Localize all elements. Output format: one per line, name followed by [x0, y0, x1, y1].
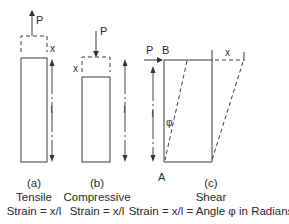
corner-a-label: A: [158, 171, 166, 183]
specimen-body: [21, 58, 47, 162]
caption-formula-b: Strain = x/l: [70, 205, 125, 217]
caption-title-a: Tensile: [16, 191, 52, 203]
length-label: l: [124, 105, 126, 115]
sheared-left-edge: [165, 61, 187, 160]
dimension-arrow-up-icon: [123, 59, 128, 66]
caption-label-c: (c): [204, 177, 218, 189]
length-label: l: [51, 105, 53, 115]
caption-label-a: (a): [27, 177, 41, 189]
dimension-arrow-down-icon: [50, 155, 55, 162]
elongation-outline: [21, 36, 47, 52]
specimen-body: [82, 77, 110, 162]
angle-phi-label: φ: [166, 117, 173, 128]
length-label: l: [152, 109, 154, 119]
extension-label: x: [73, 63, 78, 74]
dimension-arrow-down-icon: [151, 155, 156, 162]
strain-diagram: P x l P x l x P B A: [0, 0, 289, 224]
captions: (a) Tensile Strain = x/l (b) Compressive…: [7, 177, 289, 217]
dimension-arrow-up-icon: [151, 66, 156, 73]
panel-compressive: P x l: [73, 25, 128, 162]
force-label: P: [146, 44, 153, 56]
force-label: P: [100, 25, 107, 37]
dimension-arrow-up-icon: [50, 59, 55, 66]
caption-title-b: Compressive: [63, 191, 130, 203]
caption-formula-a: Strain = x/l: [7, 205, 62, 217]
sheared-right-edge: [212, 62, 243, 160]
displacement-label: x: [225, 47, 230, 58]
caption-title-c: Shear: [196, 191, 227, 203]
panel-shear: x P B A φ l: [144, 44, 244, 183]
original-outline: [82, 57, 110, 72]
caption-formula-c: Strain = x/l = Angle φ in Radians: [129, 205, 289, 217]
panel-tensile: P x l: [21, 11, 55, 162]
corner-b-label: B: [162, 44, 169, 56]
extension-label: x: [50, 43, 55, 54]
caption-label-b: (b): [90, 177, 104, 189]
dimension-arrow-down-icon: [123, 155, 128, 162]
force-label: P: [36, 14, 43, 26]
